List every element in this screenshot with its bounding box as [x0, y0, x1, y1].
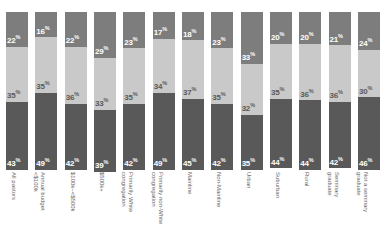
bar-segment-value: 17%	[154, 27, 167, 37]
bar-segment-bottom: 45%	[182, 99, 204, 170]
bar-segment-middle: 35%	[211, 48, 233, 103]
bar-segment-middle: 36%	[329, 45, 351, 102]
bar-column: 33%32%35%	[241, 12, 263, 170]
bar-segment-value: 30%	[359, 86, 372, 96]
bar-column: 22%36%42%	[65, 12, 87, 170]
bar-segment-middle: 32%	[241, 64, 263, 115]
bar-segment-bottom: 43%	[6, 102, 28, 170]
x-axis-label-cell: All pastors	[6, 172, 28, 246]
bar-segment-bottom: 44%	[299, 100, 321, 170]
bar-segment-middle: 35%	[6, 47, 28, 102]
bar-segment-value: 42%	[330, 157, 343, 167]
bar-segment-value: 23%	[124, 37, 137, 47]
bar-segment-bottom: 49%	[35, 93, 57, 170]
bar-segment-value: 36%	[330, 90, 343, 100]
bar-segment-value: 35%	[7, 90, 20, 100]
bar-column: 22%35%43%	[6, 12, 28, 170]
bar-segment-value: 39%	[95, 160, 108, 170]
bar-segment-value: 42%	[66, 158, 79, 168]
bar-segment-value: 36%	[300, 89, 313, 99]
x-axis-label-cell: Suburban	[270, 172, 292, 246]
bar-column: 17%34%49%	[153, 12, 175, 170]
x-axis-label: Primarily White congregation	[121, 172, 134, 246]
bar-segment-value: 24%	[359, 38, 372, 48]
bar-segment-value: 21%	[330, 34, 343, 44]
x-axis-label: $100k–<$500k	[69, 172, 76, 246]
bar-column: 29%33%39%	[94, 12, 116, 170]
bar-segment-bottom: 44%	[270, 99, 292, 169]
x-axis-label-cell: Urban	[241, 172, 263, 246]
x-axis-label-cell: Seminary graduate	[329, 172, 351, 246]
x-axis-label-cell: Not a seminary graduate	[358, 172, 380, 246]
bar-segment-top: 24%	[358, 12, 380, 50]
x-axis-label-cell: Mainline	[182, 172, 204, 246]
bar-segment-top: 33%	[241, 12, 263, 64]
bar-column: 16%35%49%	[35, 12, 57, 170]
x-axis-label-cell: Non-Mainline	[211, 172, 233, 246]
bar-segment-value: 44%	[300, 158, 313, 168]
bar-segment-top: 21%	[329, 12, 351, 45]
bar-segment-middle: 33%	[94, 58, 116, 110]
x-axis-label: Mainline	[186, 172, 193, 246]
bar-segment-top: 22%	[6, 12, 28, 47]
bar-segment-bottom: 42%	[211, 104, 233, 170]
bar-segment-value: 35%	[36, 81, 49, 91]
bar-segment-top: 22%	[65, 12, 87, 47]
bar-segment-value: 42%	[212, 158, 225, 168]
bar-segment-middle: 36%	[299, 44, 321, 101]
bar-segment-value: 49%	[36, 158, 49, 168]
x-axis-label-cell: Primarily White congregation	[123, 172, 145, 246]
bar-segment-value: 37%	[183, 87, 196, 97]
bar-segment-value: 34%	[154, 81, 167, 91]
bar-segment-top: 17%	[153, 12, 175, 39]
x-axis-label: Suburban	[274, 172, 281, 246]
bar-column: 24%30%46%	[358, 12, 380, 170]
bar-segment-value: 20%	[300, 32, 313, 42]
bar-segment-bottom: 46%	[358, 97, 380, 170]
bar-segment-value: 23%	[212, 37, 225, 47]
bar-segment-bottom: 42%	[329, 102, 351, 168]
bar-segment-top: 20%	[299, 12, 321, 44]
bar-segment-value: 49%	[154, 158, 167, 168]
bar-segment-top: 29%	[94, 12, 116, 58]
bar-segment-value: 45%	[183, 158, 196, 168]
bar-segment-value: 43%	[7, 158, 20, 168]
x-axis-label: $500k+	[98, 172, 105, 246]
bar-segment-value: 42%	[124, 158, 137, 168]
bar-segment-value: 35%	[242, 158, 255, 168]
bar-column: 20%36%44%	[299, 12, 321, 170]
x-axis-label-cell: Annual budget <$100k	[35, 172, 57, 246]
x-axis-label: Primarily non-White congregation	[150, 172, 163, 246]
bar-segment-value: 33%	[95, 98, 108, 108]
x-axis-label-row: All pastorsAnnual budget <$100k$100k–<$5…	[6, 172, 380, 246]
bar-segment-value: 32%	[242, 103, 255, 113]
bar-segment-top: 23%	[123, 12, 145, 48]
stacked-bar-chart: 22%35%43%16%35%49%22%36%42%29%33%39%23%3…	[0, 0, 386, 248]
bar-segment-value: 36%	[66, 92, 79, 102]
x-axis-label-cell: $500k+	[94, 172, 116, 246]
x-axis-label: Urban	[245, 172, 252, 246]
plot-area: 22%35%43%16%35%49%22%36%42%29%33%39%23%3…	[6, 12, 380, 170]
bar-segment-middle: 34%	[153, 39, 175, 93]
bar-column: 18%37%45%	[182, 12, 204, 170]
bar-segment-bottom: 35%	[241, 115, 263, 170]
bar-segment-value: 22%	[7, 35, 20, 45]
bar-column: 23%35%42%	[123, 12, 145, 170]
x-axis-label: Not a seminary graduate	[356, 172, 369, 246]
x-axis-label: Rural	[304, 172, 311, 246]
bar-segment-value: 33%	[242, 52, 255, 62]
bar-segment-top: 23%	[211, 12, 233, 48]
x-axis-label-cell: Primarily non-White congregation	[153, 172, 175, 246]
bar-segment-top: 16%	[35, 12, 57, 37]
bar-segment-bottom: 42%	[65, 104, 87, 170]
bar-segment-value: 44%	[271, 157, 284, 167]
bar-segment-value: 29%	[95, 46, 108, 56]
bar-segment-bottom: 42%	[123, 104, 145, 170]
bar-segment-value: 20%	[271, 32, 284, 42]
x-axis-label: Non-Mainline	[216, 172, 223, 246]
bar-segment-value: 35%	[212, 92, 225, 102]
bar-segment-middle: 35%	[35, 37, 57, 92]
bar-segment-bottom: 39%	[94, 110, 116, 172]
bar-segment-middle: 35%	[123, 48, 145, 103]
bar-segment-value: 22%	[66, 35, 79, 45]
